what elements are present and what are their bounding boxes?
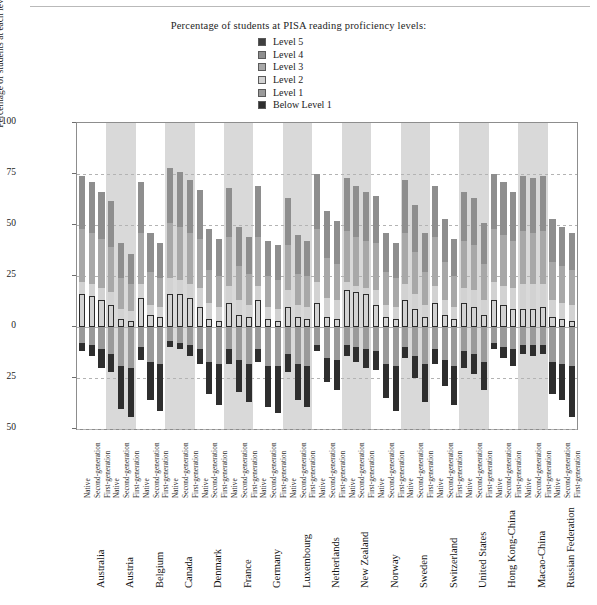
bar-segment-below-level1 — [451, 366, 457, 405]
bar-group[interactable] — [402, 123, 408, 429]
bar-positive — [295, 317, 301, 327]
plot-area — [76, 122, 578, 430]
bar-segment-level1 — [167, 327, 173, 341]
bar-group[interactable] — [265, 123, 271, 429]
bar-group[interactable] — [373, 123, 379, 429]
bar-group[interactable] — [569, 123, 575, 429]
legend-item[interactable]: Below Level 1 — [258, 99, 332, 112]
generation-label: Native — [525, 478, 533, 498]
bar-group[interactable] — [304, 123, 310, 429]
bar-group[interactable] — [118, 123, 124, 429]
bar-group[interactable] — [167, 123, 173, 429]
bar-segment — [216, 239, 222, 276]
bar-group[interactable] — [412, 123, 418, 429]
chart-title: Percentage of students at PISA reading p… — [0, 20, 597, 31]
y-tick-label: 100 — [0, 116, 16, 126]
bar-group[interactable] — [491, 123, 497, 429]
bar-segment-level1 — [353, 327, 359, 347]
bar-group[interactable] — [422, 123, 428, 429]
bar-group[interactable] — [530, 123, 536, 429]
bar-segment — [275, 280, 281, 309]
bar-group[interactable] — [510, 123, 516, 429]
bar-group[interactable] — [461, 123, 467, 429]
bar-segment-below-level1 — [393, 366, 399, 411]
bar-group[interactable] — [285, 123, 291, 429]
bar-group[interactable] — [559, 123, 565, 429]
bar-group[interactable] — [540, 123, 546, 429]
bar-group[interactable] — [187, 123, 193, 429]
y-tick-label: 75 — [0, 167, 16, 177]
bar-group[interactable] — [147, 123, 153, 429]
bar-group[interactable] — [295, 123, 301, 429]
generation-label: First-generation — [309, 450, 317, 498]
bar-group[interactable] — [98, 123, 104, 429]
legend-label: Level 5 — [273, 37, 303, 47]
bar-group[interactable] — [471, 123, 477, 429]
legend-item[interactable]: Level 4 — [258, 49, 332, 62]
bar-group[interactable] — [157, 123, 163, 429]
bar-group[interactable] — [393, 123, 399, 429]
bar-group[interactable] — [353, 123, 359, 429]
country-label: Luxembourg — [301, 534, 312, 588]
legend-item[interactable]: Level 1 — [258, 86, 332, 99]
bar-group[interactable] — [216, 123, 222, 429]
bar-group[interactable] — [206, 123, 212, 429]
bar-group[interactable] — [314, 123, 320, 429]
bar-group[interactable] — [363, 123, 369, 429]
bar-group[interactable] — [255, 123, 261, 429]
country-label: New Zealand — [359, 532, 370, 588]
bar-segment-below-level1 — [569, 366, 575, 417]
bar-segment — [402, 284, 408, 327]
bar-group[interactable] — [236, 123, 242, 429]
bar-group[interactable] — [549, 123, 555, 429]
bar-positive — [412, 309, 418, 327]
bar-group[interactable] — [275, 123, 281, 429]
bar-group[interactable] — [481, 123, 487, 429]
bar-segment-level1 — [177, 327, 183, 343]
bar-group[interactable] — [226, 123, 232, 429]
bar-group[interactable] — [383, 123, 389, 429]
bar-group[interactable] — [89, 123, 95, 429]
bar-group[interactable] — [344, 123, 350, 429]
legend-swatch-icon — [258, 76, 266, 84]
bar-segment — [265, 307, 271, 327]
legend-item[interactable]: Level 2 — [258, 74, 332, 87]
bar-positive — [226, 303, 232, 327]
bar-segment — [226, 188, 232, 237]
bar-segment — [412, 294, 418, 327]
generation-label: Native — [319, 478, 327, 498]
y-tick-label: 25 — [0, 371, 16, 381]
bar-group[interactable] — [520, 123, 526, 429]
bar-segment — [549, 219, 555, 262]
legend-item[interactable]: Level 5 — [258, 36, 332, 49]
bar-group[interactable] — [128, 123, 134, 429]
legend-label: Level 4 — [273, 50, 303, 60]
bar-segment — [451, 276, 457, 307]
bar-group[interactable] — [246, 123, 252, 429]
bar-segment-level1 — [422, 327, 428, 364]
generation-label: Second-generation — [94, 442, 102, 498]
bar-group[interactable] — [138, 123, 144, 429]
bar-segment — [275, 245, 281, 280]
bar-segment-below-level1 — [324, 358, 330, 382]
bar-group[interactable] — [108, 123, 114, 429]
bar-group[interactable] — [432, 123, 438, 429]
bar-group[interactable] — [500, 123, 506, 429]
bar-segment — [334, 264, 340, 301]
bar-group[interactable] — [79, 123, 85, 429]
bar-group[interactable] — [197, 123, 203, 429]
bar-group[interactable] — [442, 123, 448, 429]
bar-positive — [373, 305, 379, 327]
bar-group[interactable] — [324, 123, 330, 429]
bar-segment — [422, 305, 428, 327]
bar-segment-level1 — [314, 327, 320, 345]
bar-group[interactable] — [334, 123, 340, 429]
bar-group[interactable] — [451, 123, 457, 429]
bar-positive — [520, 309, 526, 327]
bar-segment-below-level1 — [481, 362, 487, 391]
legend-item[interactable]: Level 3 — [258, 61, 332, 74]
bar-group[interactable] — [177, 123, 183, 429]
bar-segment — [353, 286, 359, 327]
bar-segment — [383, 272, 389, 305]
bar-segment — [491, 229, 497, 282]
